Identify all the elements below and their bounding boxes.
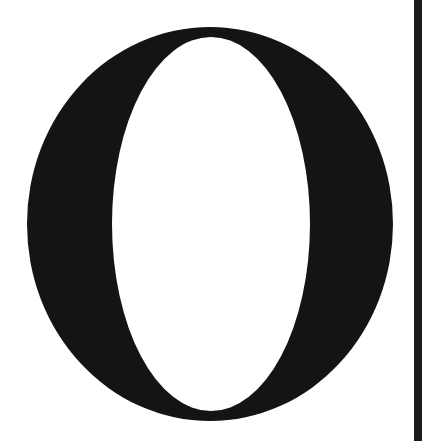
letter-o-icon (0, 0, 422, 441)
right-edge-bar (414, 0, 422, 441)
letter-o-graphic: O (0, 0, 422, 441)
